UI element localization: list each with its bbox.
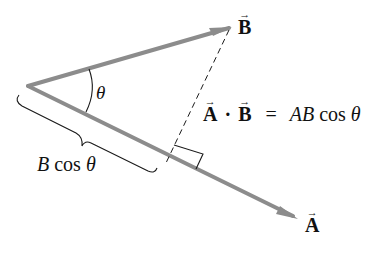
vector-arrow-icon: → bbox=[305, 207, 319, 218]
projection-b: B bbox=[37, 153, 49, 175]
vector-a-arrowhead bbox=[276, 206, 298, 219]
vector-b-line bbox=[28, 28, 229, 86]
vector-a-label: → A bbox=[305, 215, 319, 235]
equation-theta: θ bbox=[351, 103, 361, 125]
projection-cos: cos bbox=[54, 153, 81, 175]
equation-vector-b: → B bbox=[238, 104, 251, 124]
vector-arrow-icon: → bbox=[203, 96, 217, 107]
equation-ab: AB bbox=[290, 103, 314, 125]
angle-arc bbox=[86, 69, 92, 112]
equals-sign: = bbox=[265, 103, 276, 125]
dot-product-equation: → A · → B = AB cos θ bbox=[203, 104, 361, 124]
dot-product-diagram bbox=[0, 0, 381, 253]
vector-b-label: → B bbox=[238, 17, 251, 37]
dot-operator: · bbox=[224, 103, 231, 125]
vector-arrow-icon: → bbox=[238, 96, 251, 107]
projection-label: B cos θ bbox=[37, 154, 96, 174]
equation-vector-a: → A bbox=[203, 104, 217, 124]
angle-theta-label: θ bbox=[96, 83, 105, 102]
equation-cos: cos bbox=[319, 103, 346, 125]
projection-theta: θ bbox=[86, 153, 96, 175]
vector-arrow-icon: → bbox=[238, 9, 251, 20]
projection-dashed-line bbox=[166, 30, 229, 163]
